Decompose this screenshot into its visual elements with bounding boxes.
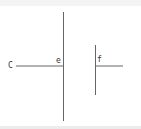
label-c: C bbox=[8, 62, 13, 70]
bottom-border bbox=[0, 126, 141, 129]
label-f: f bbox=[97, 56, 102, 64]
diagram-canvas bbox=[0, 0, 141, 129]
label-e: e bbox=[56, 57, 61, 65]
